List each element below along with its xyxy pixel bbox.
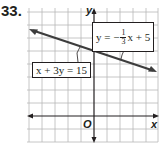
y-axis-label: y [86,4,92,16]
origin-label: O [83,118,92,130]
equation-label-standard-form: x + 3y = 15 [32,62,91,78]
x-axis-label: x [151,118,157,130]
equation-label-slope-intercept: y = − 1 3 x + 5 [92,22,154,52]
fraction-one-third: 1 3 [120,29,126,46]
eq1-suffix: x + 5 [127,31,150,43]
eq1-prefix: y = − [96,31,119,43]
